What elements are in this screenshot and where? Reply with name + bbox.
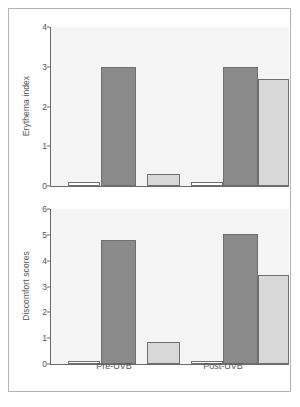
bar-top-pre-uvb-series-3 xyxy=(147,174,180,186)
y-axis-title-top: Erythema index xyxy=(21,31,31,181)
y-axis-line-top xyxy=(50,27,51,187)
bar-top-post-uvb-series-3 xyxy=(258,79,289,186)
figure-frame: Erythema index 01234 Discomfort scores 0… xyxy=(8,8,291,392)
y-axis-line-bottom xyxy=(50,209,51,365)
bar-top-pre-uvb-series-1 xyxy=(68,182,100,186)
x-axis-line-top xyxy=(50,186,289,187)
bar-bottom-post-uvb-series-3 xyxy=(258,275,289,364)
y-axis-ticks-top: 01234 xyxy=(31,21,47,201)
plot-area-bottom xyxy=(50,209,289,365)
plot-area-top xyxy=(50,27,289,187)
bar-top-pre-uvb-series-2 xyxy=(101,67,136,186)
chart-panel-erythema-index: Erythema index 01234 xyxy=(9,21,292,201)
x-axis-category-labels: Pre-UVBPost-UVB xyxy=(50,361,287,377)
y-axis-ticks-bottom: 0123456 xyxy=(31,203,47,379)
chart-panel-discomfort-scores: Discomfort scores 0123456 xyxy=(9,203,292,379)
x-axis-label-pre-uvb: Pre-UVB xyxy=(96,361,132,371)
x-axis-label-post-uvb: Post-UVB xyxy=(203,361,243,371)
bar-top-post-uvb-series-2 xyxy=(223,67,258,186)
bar-top-post-uvb-series-1 xyxy=(191,182,223,186)
bar-bottom-post-uvb-series-2 xyxy=(223,234,258,364)
bar-bottom-pre-uvb-series-2 xyxy=(101,240,136,364)
y-axis-title-bottom: Discomfort scores xyxy=(21,211,31,361)
